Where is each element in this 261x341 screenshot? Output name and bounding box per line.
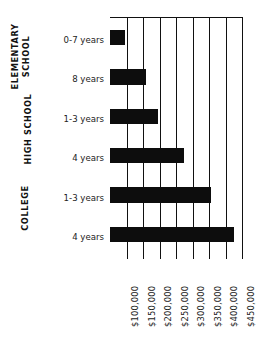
group-label-elementary-school: ELEMENTARY SCHOOL: [10, 20, 31, 94]
category-label-0: 0-7 years: [64, 35, 104, 45]
group-label-elementary-line1: ELEMENTARY: [10, 23, 20, 89]
bar-chart: ELEMENTARY SCHOOL HIGH SCHOOL COLLEGE 0-…: [0, 0, 261, 341]
category-label-4: 1-3 years: [64, 193, 104, 203]
group-label-college: COLLEGE: [20, 171, 30, 245]
x-tick-label-6: $400,000: [229, 286, 239, 327]
category-label-column: 0-7 years 8 years 1-3 years 4 years 1-3 …: [40, 0, 104, 250]
gridline-6: [226, 17, 227, 253]
bar-1: [110, 69, 146, 85]
bar-5: [110, 227, 234, 243]
x-tick-label-7: $450,000: [246, 286, 256, 327]
x-tick-label-1: $150,000: [147, 286, 157, 327]
gridline-1: [143, 17, 144, 253]
x-tick-label-3: $250,000: [180, 286, 190, 327]
gridline-5: [209, 17, 210, 253]
gridline-2: [160, 17, 161, 253]
group-label-elementary-line2: SCHOOL: [20, 36, 30, 78]
bar-4: [110, 187, 211, 203]
gridline-7: [242, 17, 243, 253]
plot-area: [110, 17, 242, 253]
x-tick-label-2: $200,000: [163, 286, 173, 327]
bar-2: [110, 109, 158, 125]
category-label-3: 4 years: [72, 153, 104, 163]
x-axis-tick-labels: $100,000$150,000$200,000$250,000$300,000…: [110, 259, 250, 339]
bar-0: [110, 30, 125, 46]
category-label-5: 4 years: [72, 232, 104, 242]
gridline-4: [193, 17, 194, 253]
gridline-3: [176, 17, 177, 253]
x-tick-label-4: $300,000: [196, 286, 206, 327]
gridline-0: [127, 17, 128, 253]
group-label-high-school: HIGH SCHOOL: [23, 92, 33, 166]
bar-3: [110, 148, 184, 164]
x-tick-label-5: $350,000: [213, 286, 223, 327]
x-tick-label-0: $100,000: [130, 286, 140, 327]
category-label-2: 1-3 years: [64, 114, 104, 124]
category-label-1: 8 years: [72, 74, 104, 84]
